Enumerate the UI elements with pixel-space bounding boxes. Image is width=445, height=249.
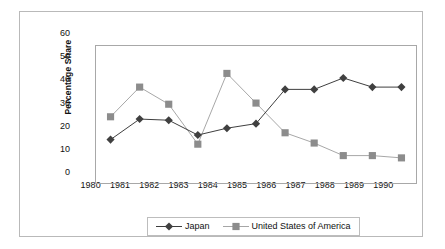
data-point-square <box>232 223 239 230</box>
data-point-square <box>252 100 259 107</box>
series-line <box>111 73 402 157</box>
y-tick-label: 10 <box>46 144 70 154</box>
legend-square-icon <box>223 222 249 231</box>
legend-diamond-icon <box>156 222 182 231</box>
data-point-diamond <box>165 222 173 230</box>
data-point-square <box>282 129 289 136</box>
series-canvas <box>96 46 416 183</box>
data-point-square <box>398 154 405 161</box>
data-point-diamond <box>368 83 376 91</box>
y-tick-label: 40 <box>46 74 70 84</box>
chart-outer-frame: Percentage Share 0102030405060 198019811… <box>19 11 423 237</box>
data-point-diamond <box>310 85 318 93</box>
data-point-diamond <box>339 74 347 82</box>
data-point-diamond <box>136 115 144 123</box>
y-tick-label: 50 <box>46 51 70 61</box>
data-point-diamond <box>106 136 114 144</box>
y-tick-label: 0 <box>46 167 70 177</box>
data-point-diamond <box>397 83 405 91</box>
data-point-square <box>194 141 201 148</box>
series-japan <box>106 74 405 144</box>
data-point-diamond <box>165 116 173 124</box>
chart-screenshot: Percentage Share 0102030405060 198019811… <box>0 0 445 249</box>
legend-label: United States of America <box>252 222 351 231</box>
legend-entry[interactable]: United States of America <box>223 222 351 231</box>
y-tick-label: 60 <box>46 28 70 38</box>
data-point-square <box>136 84 143 91</box>
data-point-square <box>340 152 347 159</box>
chart-legend: JapanUnited States of America <box>147 217 360 236</box>
data-point-square <box>165 101 172 108</box>
data-point-square <box>223 70 230 77</box>
data-point-diamond <box>223 124 231 132</box>
y-tick-label: 20 <box>46 121 70 131</box>
legend-label: Japan <box>185 222 210 231</box>
data-point-square <box>311 139 318 146</box>
data-point-square <box>107 113 114 120</box>
y-tick-label: 30 <box>46 98 70 108</box>
series-line <box>111 78 402 140</box>
data-point-square <box>369 152 376 159</box>
legend-entry[interactable]: Japan <box>156 222 210 231</box>
plot-area <box>95 45 417 184</box>
